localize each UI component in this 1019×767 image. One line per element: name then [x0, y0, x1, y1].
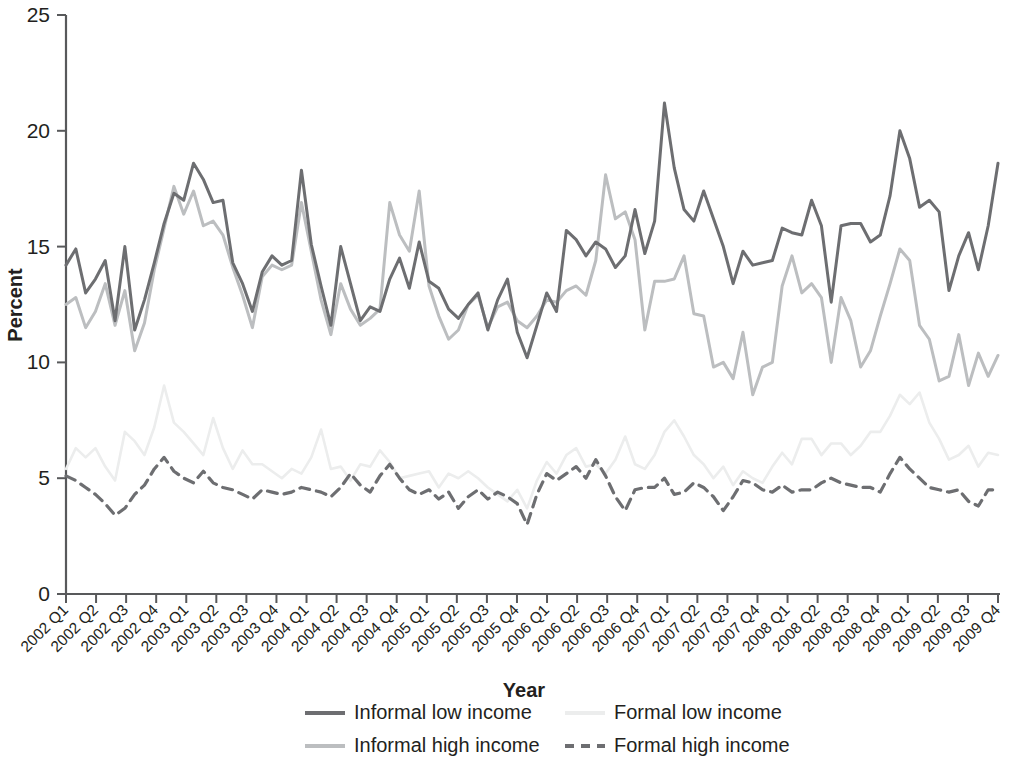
legend-label-informal-low-income: Informal low income: [354, 701, 532, 723]
x-axis-title: Year: [503, 679, 545, 701]
y-tick-label: 10: [27, 350, 50, 373]
legend-label-formal-high-income: Formal high income: [614, 734, 790, 756]
legend-label-formal-low-income: Formal low income: [614, 701, 782, 723]
legend-label-informal-high-income: Informal high income: [354, 734, 540, 756]
y-tick-label: 5: [38, 466, 50, 489]
chart-legend: Informal low incomeFormal low incomeInfo…: [305, 701, 790, 756]
y-tick-label: 0: [38, 582, 50, 605]
y-tick-label: 20: [27, 119, 50, 142]
y-axis-title: Percent: [4, 268, 26, 342]
y-tick-label: 25: [27, 3, 50, 26]
series-lines: [66, 103, 998, 525]
line-chart: 0510152025 Percent 2002 Q12002 Q22002 Q3…: [0, 0, 1019, 767]
x-tick-marks: [66, 594, 998, 603]
x-axis-group: 2002 Q12002 Q22002 Q32002 Q42003 Q12003 …: [17, 594, 1003, 701]
series-line-informal-high-income: [66, 175, 998, 395]
y-axis-group: 0510152025 Percent: [4, 3, 66, 605]
series-line-formal-low-income: [66, 386, 998, 509]
x-tick-labels: 2002 Q12002 Q22002 Q32002 Q42003 Q12003 …: [17, 601, 1003, 655]
chart-figure: 0510152025 Percent 2002 Q12002 Q22002 Q3…: [0, 0, 1019, 767]
y-tick-labels: 0510152025: [27, 3, 50, 605]
y-tick-label: 15: [27, 235, 50, 258]
